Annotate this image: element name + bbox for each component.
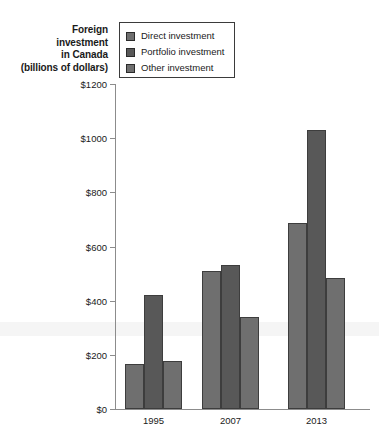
y-axis-line [115, 84, 116, 409]
bar-2013-other-investment [326, 278, 345, 409]
y-tick-label: $1200 [81, 79, 107, 90]
bar-chart: Foreign investment in Canada (billions o… [0, 0, 379, 442]
plot-area: $0$200$400$600$800$1000$1200 19952007201… [115, 84, 370, 409]
chart-legend: Direct investment Portfolio investment O… [119, 22, 235, 78]
chart-title: Foreign investment in Canada (billions o… [4, 24, 108, 74]
y-tick-mark [110, 192, 115, 193]
bar-2007-portfolio-investment [221, 265, 240, 409]
y-tick-mark [110, 355, 115, 356]
legend-swatch-icon-direct-investment [126, 32, 135, 41]
legend-swatch-icon-portfolio-investment [126, 48, 135, 57]
chart-title-line-1: Foreign [4, 24, 108, 37]
legend-swatch-icon-other-investment [126, 64, 135, 73]
y-tick-label: $600 [86, 241, 107, 252]
bar-1995-direct-investment [125, 364, 144, 409]
chart-title-line-4: (billions of dollars) [4, 62, 108, 75]
x-axis-line [115, 409, 370, 410]
y-tick-mark [110, 138, 115, 139]
legend-label-direct-investment: Direct investment [141, 31, 214, 41]
legend-item-portfolio-investment: Portfolio investment [126, 44, 234, 60]
x-axis-label-2007: 2007 [220, 415, 241, 426]
chart-title-line-2: investment [4, 37, 108, 50]
y-tick-mark [110, 409, 115, 410]
legend-item-other-investment: Other investment [126, 60, 234, 76]
legend-label-portfolio-investment: Portfolio investment [141, 47, 224, 57]
y-tick-label: $1000 [81, 133, 107, 144]
chart-title-line-3: in Canada [4, 49, 108, 62]
y-tick-label: $400 [86, 295, 107, 306]
bar-2013-portfolio-investment [307, 130, 326, 409]
y-tick-label: $200 [86, 349, 107, 360]
legend-item-direct-investment: Direct investment [126, 28, 234, 44]
bar-2007-other-investment [240, 317, 259, 409]
y-tick-mark [110, 84, 115, 85]
bar-2013-direct-investment [288, 223, 307, 409]
y-tick-label: $0 [96, 404, 107, 415]
y-tick-label: $800 [86, 187, 107, 198]
bar-1995-other-investment [163, 361, 182, 409]
legend-label-other-investment: Other investment [141, 63, 213, 73]
y-tick-mark [110, 247, 115, 248]
x-axis-label-1995: 1995 [143, 415, 164, 426]
bar-2007-direct-investment [202, 271, 221, 409]
y-tick-mark [110, 301, 115, 302]
bar-1995-portfolio-investment [144, 295, 163, 409]
x-axis-label-2013: 2013 [306, 415, 327, 426]
